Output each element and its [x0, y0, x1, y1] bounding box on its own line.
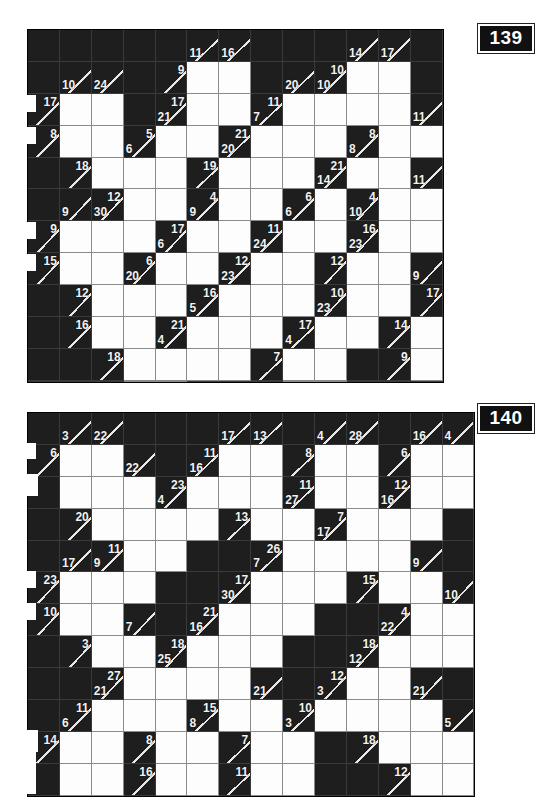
answer-cell[interactable] — [347, 700, 379, 732]
answer-cell[interactable] — [347, 253, 379, 285]
answer-cell[interactable] — [219, 158, 251, 190]
answer-cell[interactable] — [251, 572, 283, 604]
answer-cell[interactable] — [219, 189, 251, 221]
answer-cell[interactable] — [411, 445, 443, 477]
answer-cell[interactable] — [379, 700, 411, 732]
answer-cell[interactable] — [347, 285, 379, 317]
answer-cell[interactable] — [124, 477, 156, 509]
answer-cell[interactable] — [315, 700, 347, 732]
answer-cell[interactable] — [156, 253, 188, 285]
answer-cell[interactable] — [60, 253, 92, 285]
answer-cell[interactable] — [283, 764, 315, 796]
answer-cell[interactable] — [251, 445, 283, 477]
answer-cell[interactable] — [283, 126, 315, 158]
answer-cell[interactable] — [315, 445, 347, 477]
answer-cell[interactable] — [251, 253, 283, 285]
answer-cell[interactable] — [251, 700, 283, 732]
answer-cell[interactable] — [251, 509, 283, 541]
answer-cell[interactable] — [60, 221, 92, 253]
answer-cell[interactable] — [92, 604, 124, 636]
answer-cell[interactable] — [219, 700, 251, 732]
answer-cell[interactable] — [411, 477, 443, 509]
answer-cell[interactable] — [92, 445, 124, 477]
answer-cell[interactable] — [60, 764, 92, 796]
answer-cell[interactable] — [283, 285, 315, 317]
answer-cell[interactable] — [219, 285, 251, 317]
answer-cell[interactable] — [251, 126, 283, 158]
answer-cell[interactable] — [411, 572, 443, 604]
answer-cell[interactable] — [379, 221, 411, 253]
answer-cell[interactable] — [187, 94, 219, 126]
answer-cell[interactable] — [411, 126, 443, 158]
answer-cell[interactable] — [124, 572, 156, 604]
answer-cell[interactable] — [379, 509, 411, 541]
answer-cell[interactable] — [219, 477, 251, 509]
answer-cell[interactable] — [251, 189, 283, 221]
answer-cell[interactable] — [251, 285, 283, 317]
answer-cell[interactable] — [283, 572, 315, 604]
answer-cell[interactable] — [92, 764, 124, 796]
answer-cell[interactable] — [92, 253, 124, 285]
answer-cell[interactable] — [251, 636, 283, 668]
answer-cell[interactable] — [315, 126, 347, 158]
answer-cell[interactable] — [156, 189, 188, 221]
answer-cell[interactable] — [60, 126, 92, 158]
answer-cell[interactable] — [187, 668, 219, 700]
answer-cell[interactable] — [315, 189, 347, 221]
answer-cell[interactable] — [283, 541, 315, 573]
answer-cell[interactable] — [283, 158, 315, 190]
answer-cell[interactable] — [411, 604, 443, 636]
answer-cell[interactable] — [156, 349, 188, 381]
answer-cell[interactable] — [187, 253, 219, 285]
answer-cell[interactable] — [379, 572, 411, 604]
answer-cell[interactable] — [443, 445, 475, 477]
answer-cell[interactable] — [156, 285, 188, 317]
answer-cell[interactable] — [156, 764, 188, 796]
answer-cell[interactable] — [124, 636, 156, 668]
answer-cell[interactable] — [411, 221, 443, 253]
answer-cell[interactable] — [187, 764, 219, 796]
answer-cell[interactable] — [187, 636, 219, 668]
answer-cell[interactable] — [251, 477, 283, 509]
answer-cell[interactable] — [124, 541, 156, 573]
answer-cell[interactable] — [92, 700, 124, 732]
answer-cell[interactable] — [251, 764, 283, 796]
answer-cell[interactable] — [92, 636, 124, 668]
answer-cell[interactable] — [219, 668, 251, 700]
answer-cell[interactable] — [124, 700, 156, 732]
answer-cell[interactable] — [283, 94, 315, 126]
answer-cell[interactable] — [379, 732, 411, 764]
answer-cell[interactable] — [156, 381, 188, 382]
answer-cell[interactable] — [92, 509, 124, 541]
answer-cell[interactable] — [443, 604, 475, 636]
answer-cell[interactable] — [283, 221, 315, 253]
answer-cell[interactable] — [443, 477, 475, 509]
answer-cell[interactable] — [283, 381, 315, 382]
answer-cell[interactable] — [315, 541, 347, 573]
answer-cell[interactable] — [219, 445, 251, 477]
answer-cell[interactable] — [379, 668, 411, 700]
answer-cell[interactable] — [219, 349, 251, 381]
answer-cell[interactable] — [251, 732, 283, 764]
answer-cell[interactable] — [219, 62, 251, 94]
answer-cell[interactable] — [411, 636, 443, 668]
answer-cell[interactable] — [92, 572, 124, 604]
answer-cell[interactable] — [443, 732, 475, 764]
answer-cell[interactable] — [315, 94, 347, 126]
answer-cell[interactable] — [251, 317, 283, 349]
answer-cell[interactable] — [187, 477, 219, 509]
answer-cell[interactable] — [251, 158, 283, 190]
answer-cell[interactable] — [187, 221, 219, 253]
answer-cell[interactable] — [315, 477, 347, 509]
answer-cell[interactable] — [187, 62, 219, 94]
answer-cell[interactable] — [187, 126, 219, 158]
answer-cell[interactable] — [187, 317, 219, 349]
answer-cell[interactable] — [156, 509, 188, 541]
answer-cell[interactable] — [283, 253, 315, 285]
answer-cell[interactable] — [315, 572, 347, 604]
answer-cell[interactable] — [411, 509, 443, 541]
answer-cell[interactable] — [379, 62, 411, 94]
answer-cell[interactable] — [187, 349, 219, 381]
answer-cell[interactable] — [124, 158, 156, 190]
answer-cell[interactable] — [315, 221, 347, 253]
